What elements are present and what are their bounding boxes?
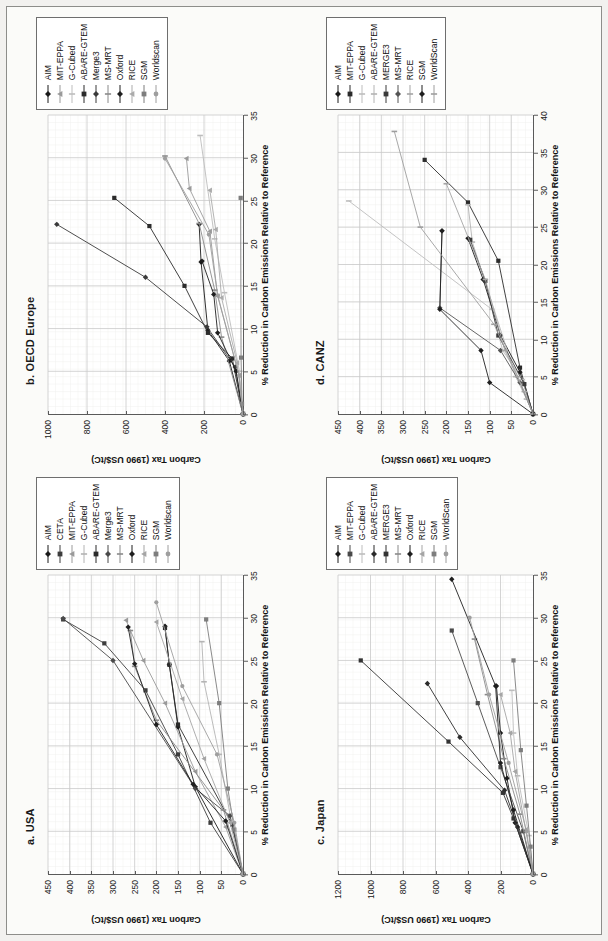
legend-item-label: ABARE-GTEM bbox=[369, 484, 379, 543]
legend-item[interactable]: G-Cubed bbox=[78, 484, 90, 565]
panel-oecd-europe: b. OECD Europe Carbon Tax (1990 US$/tC) … bbox=[14, 11, 304, 471]
legend-item[interactable]: RICE bbox=[404, 24, 416, 105]
legend-item-label: SGM bbox=[151, 520, 161, 542]
legend-item-label: MERGE3 bbox=[381, 44, 391, 83]
x-tick-label: 10 bbox=[244, 784, 259, 793]
legend-item[interactable]: MS-MRT bbox=[392, 24, 404, 105]
legend-item[interactable]: MS-MRT bbox=[114, 484, 126, 565]
legend-marker-icon bbox=[54, 83, 66, 105]
legend-item[interactable]: MIT-EPPA bbox=[54, 24, 66, 105]
legend-item[interactable]: Worldscan bbox=[150, 24, 162, 105]
x-tick-label: 5 bbox=[244, 369, 259, 374]
legend-item[interactable]: MIT-EPPA bbox=[344, 484, 356, 565]
legend-item[interactable]: Worldscan bbox=[162, 484, 174, 565]
legend-marker-icon bbox=[380, 543, 392, 565]
x-tick-label: 25 bbox=[534, 223, 549, 232]
legend-item[interactable]: ABARE-GTEM bbox=[368, 484, 380, 565]
legend-item-label: MS-MRT bbox=[115, 506, 125, 543]
y-tick-label: 800 bbox=[398, 875, 408, 894]
legend-item[interactable]: G-Cubed bbox=[66, 24, 78, 105]
legend-item[interactable]: SGM bbox=[150, 484, 162, 565]
legend-marker-icon bbox=[126, 543, 138, 565]
x-tick-label: 15 bbox=[534, 742, 549, 751]
legend-marker-icon bbox=[102, 543, 114, 565]
y-tick-label: 250 bbox=[130, 875, 140, 894]
legend-item[interactable]: MS-MRT bbox=[392, 484, 404, 565]
legend-marker-icon bbox=[78, 543, 90, 565]
legend-marker-icon bbox=[332, 543, 344, 565]
legend-item-label: ABARE-GTEM bbox=[79, 24, 89, 83]
legend-item[interactable]: WorldScan bbox=[428, 24, 440, 105]
legend-item[interactable]: SGM bbox=[416, 24, 428, 105]
legend-marker-icon bbox=[102, 83, 114, 105]
legend-item-label: Oxford bbox=[115, 54, 125, 83]
legend-item[interactable]: MIT-EPPA bbox=[344, 24, 356, 105]
legend-marker-icon bbox=[150, 83, 162, 105]
x-tick-label: 5 bbox=[534, 375, 549, 380]
legend-marker-icon bbox=[150, 543, 162, 565]
legend-item[interactable]: Oxford bbox=[114, 24, 126, 105]
legend-item[interactable]: ABARE-GTEM bbox=[368, 24, 380, 105]
legend-marker-icon bbox=[332, 83, 344, 105]
y-tick-label: 450 bbox=[333, 415, 343, 434]
legend-item[interactable]: AIM bbox=[332, 24, 344, 105]
legend-item[interactable]: Oxford bbox=[404, 484, 416, 565]
legend-item[interactable]: RICE bbox=[138, 484, 150, 565]
legend-item-label: CETA bbox=[55, 518, 65, 543]
legend-item[interactable]: AIM bbox=[332, 484, 344, 565]
x-axis-label: % Reduction in Carbon Emissions Relative… bbox=[260, 115, 270, 415]
legend-item-label: MIT-EPPA bbox=[345, 501, 355, 543]
legend-item-label: MIT-EPPA bbox=[55, 41, 65, 83]
legend-item[interactable]: MS-MRT bbox=[102, 24, 114, 105]
y-tick-label: 400 bbox=[65, 875, 75, 894]
legend-item-label: SGM bbox=[417, 60, 427, 82]
legend-item-label: MIT-EPPA bbox=[67, 501, 77, 543]
legend-item-label: G-Cubed bbox=[67, 45, 77, 83]
x-tick-label: 5 bbox=[244, 829, 259, 834]
legend-item[interactable]: AIM bbox=[42, 24, 54, 105]
legend-item[interactable]: WorldScan bbox=[440, 484, 452, 565]
x-axis-label: % Reduction in Carbon Emissions Relative… bbox=[260, 575, 270, 875]
x-tick-label: 15 bbox=[244, 282, 259, 291]
legend-item[interactable]: Merge3 bbox=[102, 484, 114, 565]
y-tick-label: 450 bbox=[43, 875, 53, 894]
legend-item[interactable]: MIT-EPPA bbox=[66, 484, 78, 565]
legend-item[interactable]: RICE bbox=[416, 484, 428, 565]
plot-area-canz: 0501001502002503003504004500510152025303… bbox=[338, 115, 534, 415]
legend-item-label: ABARE-GTEM bbox=[369, 24, 379, 83]
legend-item[interactable]: ABARE-GTEM bbox=[90, 484, 102, 565]
legend-marker-icon bbox=[344, 543, 356, 565]
legend-item[interactable]: G-Cubed bbox=[356, 24, 368, 105]
y-tick-label: 200 bbox=[496, 875, 506, 894]
y-tick-label: 50 bbox=[216, 875, 226, 889]
y-tick-label: 200 bbox=[441, 415, 451, 434]
x-tick-label: 0 bbox=[244, 872, 259, 877]
legend-item[interactable]: ABARE-GTEM bbox=[78, 24, 90, 105]
x-tick-label: 0 bbox=[534, 412, 549, 417]
legend-item[interactable]: SGM bbox=[138, 24, 150, 105]
legend-item-label: MS-MRT bbox=[393, 46, 403, 83]
x-tick-label: 30 bbox=[244, 153, 259, 162]
legend-item[interactable]: CETA bbox=[54, 484, 66, 565]
x-tick-label: 20 bbox=[534, 699, 549, 708]
legend-marker-icon bbox=[416, 83, 428, 105]
panel-japan: c. Japan Carbon Tax (1990 US$/tC) 020040… bbox=[304, 471, 594, 931]
legend-item[interactable]: G-Cubed bbox=[356, 484, 368, 565]
legend-item[interactable]: RICE bbox=[126, 24, 138, 105]
legend-item[interactable]: MERGE3 bbox=[380, 24, 392, 105]
legend-marker-icon bbox=[42, 83, 54, 105]
legend-marker-icon bbox=[138, 83, 150, 105]
x-tick-label: 30 bbox=[534, 613, 549, 622]
legend-item[interactable]: AIM bbox=[42, 484, 54, 565]
y-tick-label: 300 bbox=[108, 875, 118, 894]
panel-title: a. USA bbox=[24, 808, 36, 845]
x-axis-label: % Reduction in Carbon Emissions Relative… bbox=[550, 575, 560, 875]
y-tick-label: 1000 bbox=[366, 875, 376, 899]
legend-item[interactable]: SGM bbox=[428, 484, 440, 565]
legend-item[interactable]: Oxford bbox=[126, 484, 138, 565]
x-tick-label: 30 bbox=[534, 186, 549, 195]
legend-item[interactable]: Merge3 bbox=[90, 24, 102, 105]
legend-marker-icon bbox=[440, 543, 452, 565]
x-tick-label: 35 bbox=[244, 571, 259, 580]
legend-item[interactable]: MERGE3 bbox=[380, 484, 392, 565]
